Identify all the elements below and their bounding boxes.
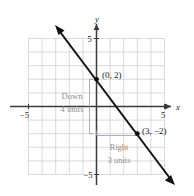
y-axis-label: y (94, 14, 99, 24)
x-axis-arrow-icon (165, 104, 171, 110)
right-annotation-line2: 3 units (108, 155, 131, 165)
y-axis-arrow-icon (94, 24, 100, 30)
y-tick-label-neg5: −5 (83, 170, 92, 180)
line-arrow-lower-icon (165, 175, 175, 185)
down-annotation-line1: Down (62, 91, 84, 101)
right-annotation-line1: Right (110, 142, 130, 152)
x-tick-label-pos5: 5 (161, 110, 165, 120)
x-axis-label: x (175, 102, 180, 112)
point-label-a: (0, 2) (102, 70, 122, 80)
point-label-b: (3, −2) (142, 126, 167, 136)
line-arrow-upper-icon (55, 25, 65, 35)
data-point-0-2 (94, 77, 99, 82)
y-tick-label-pos5: 5 (87, 34, 91, 44)
x-tick-label-neg5: −5 (20, 110, 29, 120)
down-annotation-line2: 4 units (61, 104, 84, 114)
data-point-3-neg2 (135, 131, 140, 136)
coordinate-graph-figure: −5 5 5 −5 x y (0, 2) (3, −2) Down 4 unit… (0, 0, 194, 196)
